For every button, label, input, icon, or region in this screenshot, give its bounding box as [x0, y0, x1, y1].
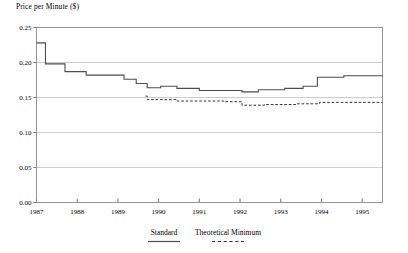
x-axis-ticks: 198719881989199019911992199319941995 — [30, 199, 370, 216]
x-tick-label: 1988 — [70, 208, 85, 216]
y-tick-label: 0.20 — [19, 59, 32, 67]
legend-label-theoretical-minimum: Theoretical Minimum — [195, 228, 261, 237]
chart-figure: Price per Minute ($) 0.000.050.100.150.2… — [0, 0, 408, 253]
chart-legend: Standard Theoretical Minimum — [0, 228, 408, 244]
y-tick-label: 0.05 — [19, 164, 32, 172]
gridlines — [37, 63, 383, 168]
plot-frame — [37, 28, 383, 203]
y-tick-label: 0.10 — [19, 129, 32, 137]
x-tick-label: 1992 — [233, 208, 248, 216]
legend-swatch-theoretical-minimum — [211, 239, 245, 244]
y-tick-label: 0.25 — [19, 24, 32, 32]
x-tick-label: 1993 — [274, 208, 289, 216]
legend-label-standard: Standard — [151, 228, 178, 237]
x-tick-label: 1990 — [152, 208, 167, 216]
legend-entry-standard: Standard — [147, 228, 181, 244]
x-tick-label: 1989 — [111, 208, 126, 216]
x-tick-label: 1995 — [355, 208, 370, 216]
x-tick-label: 1987 — [30, 208, 45, 216]
y-axis-ticks: 0.000.050.100.150.200.25 — [19, 24, 36, 207]
legend-swatch-standard — [147, 239, 181, 244]
x-tick-label: 1994 — [314, 208, 329, 216]
chart-plot-area: 0.000.050.100.150.200.25 198719881989199… — [0, 0, 408, 253]
y-tick-label: 0.15 — [19, 94, 32, 102]
legend-entry-theoretical-minimum: Theoretical Minimum — [195, 228, 261, 244]
x-tick-label: 1991 — [192, 208, 207, 216]
series-line-standard — [37, 43, 383, 92]
data-series — [37, 43, 383, 105]
y-tick-label: 0.00 — [19, 199, 32, 207]
